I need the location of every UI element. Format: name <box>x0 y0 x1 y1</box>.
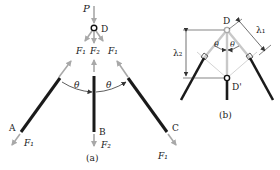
node-d-top <box>224 27 229 32</box>
force-arrow-right-bar <box>117 61 128 77</box>
force-label-c-bottom: F₁ <box>157 151 168 161</box>
member-left <box>181 58 204 100</box>
force-label-a-bottom: F₁ <box>23 138 34 148</box>
force-label-top-right: F₁ <box>107 46 118 56</box>
panel-b: D D' θ θ λ₂ λ₁ (b) <box>173 16 273 120</box>
node-d <box>91 25 97 31</box>
angle-label-b-right: θ <box>230 40 235 49</box>
bar-c <box>128 78 167 132</box>
truss-diagram: P D F₁ F₂ F₁ θ θ A B C F₁ F₂ F₁ <box>0 0 280 170</box>
force-label-b-bottom: F₂ <box>100 140 111 150</box>
lambda-1-label: λ₁ <box>256 25 265 35</box>
end-label-b: B <box>99 127 106 137</box>
angle-label-right: θ <box>106 80 112 90</box>
node-d-label: D <box>101 24 108 34</box>
end-label-c: C <box>172 123 179 133</box>
load-label: P <box>82 3 90 14</box>
node-d-top-label: D <box>223 16 230 26</box>
force-label-top-left: F₁ <box>75 46 86 56</box>
force-arrow-a-bottom <box>12 134 20 145</box>
caption-b: (b) <box>219 110 232 120</box>
force-label-top-mid: F₂ <box>89 46 100 56</box>
node-d-prime <box>224 75 229 80</box>
panel-a: P D F₁ F₂ F₁ θ θ A B C F₁ F₂ F₁ <box>8 3 179 163</box>
end-label-a: A <box>8 123 16 133</box>
node-d-prime-label: D' <box>232 82 242 92</box>
force-arrow-c-bottom <box>168 134 176 145</box>
angle-label-b-left: θ <box>214 40 219 49</box>
angle-label-left: θ <box>74 80 80 90</box>
lambda-2-label: λ₂ <box>173 48 183 58</box>
caption-a: (a) <box>86 153 98 163</box>
dim-ext-lambda1-top <box>229 19 242 29</box>
force-arrow-left-top <box>85 31 92 41</box>
force-arrow-left-bar <box>59 61 71 77</box>
member-right <box>250 58 273 100</box>
bar-a <box>21 78 60 132</box>
